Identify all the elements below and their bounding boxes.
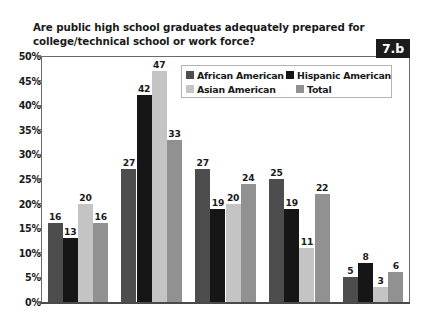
legend-item-hispanic-american: Hispanic American <box>286 68 391 82</box>
legend-swatch-icon <box>296 85 304 93</box>
bar-value-label: 16 <box>89 211 112 222</box>
x-axis-baseline <box>41 302 410 304</box>
y-axis-tick-mark <box>35 154 41 155</box>
bar-value-label: 27 <box>191 157 214 168</box>
legend-item-total: Total <box>296 82 331 96</box>
legend-label: Asian American <box>197 84 276 95</box>
legend-item-african-american: African American <box>186 68 286 82</box>
bar-value-label: 22 <box>311 182 334 193</box>
bar-value-label: 20 <box>74 192 97 203</box>
bar <box>152 71 167 302</box>
bar <box>137 95 152 302</box>
bar <box>343 277 358 302</box>
legend-swatch-icon <box>186 71 194 79</box>
bar-value-label: 6 <box>384 260 407 271</box>
legend-swatch-icon <box>286 71 294 79</box>
bar <box>63 238 78 302</box>
y-axis-tick-mark <box>35 203 41 204</box>
legend-row: Asian American Total <box>186 82 391 96</box>
legend-row: African American Hispanic American <box>186 68 391 82</box>
bar <box>315 194 330 302</box>
bar-value-label: 33 <box>163 128 186 139</box>
y-axis-tick-mark <box>35 129 41 130</box>
legend-swatch-icon <box>186 85 194 93</box>
bar <box>299 248 314 302</box>
chart-figure: Are public high school graduates adequat… <box>0 0 427 321</box>
y-axis-tick-mark <box>35 80 41 81</box>
bar <box>121 169 136 302</box>
y-axis-tick-mark <box>35 252 41 253</box>
y-axis-tick-mark <box>35 178 41 179</box>
y-axis-tick-mark <box>35 277 41 278</box>
figure-number-badge: 7.b <box>376 39 410 58</box>
y-axis-tick-mark <box>35 228 41 229</box>
bar <box>388 272 403 302</box>
chart-legend: African American Hispanic American Asian… <box>181 65 392 98</box>
bar <box>241 184 256 302</box>
legend-item-asian-american: Asian American <box>186 82 296 96</box>
bar-value-label: 16 <box>44 211 67 222</box>
bar-value-label: 24 <box>237 172 260 183</box>
chart-title: Are public high school graduates adequat… <box>33 21 378 48</box>
bar-value-label: 25 <box>265 167 288 178</box>
bar <box>167 140 182 302</box>
bar-value-label: 8 <box>354 251 377 262</box>
legend-label: Total <box>307 84 331 95</box>
y-axis-tick-mark <box>35 105 41 106</box>
bar-value-label: 47 <box>148 59 171 70</box>
y-axis-tick-mark <box>35 301 41 302</box>
bar <box>284 209 299 302</box>
y-axis-tick-mark <box>35 55 41 56</box>
y-axis: 0%5%10%15%20%25%30%35%40%45%50% <box>0 0 41 321</box>
bar <box>226 204 241 302</box>
bar <box>93 223 108 302</box>
legend-label: Hispanic American <box>297 70 391 81</box>
legend-label: African American <box>197 70 284 81</box>
bar <box>210 209 225 302</box>
bar <box>195 169 210 302</box>
bar-value-label: 19 <box>280 197 303 208</box>
bar <box>373 287 388 302</box>
